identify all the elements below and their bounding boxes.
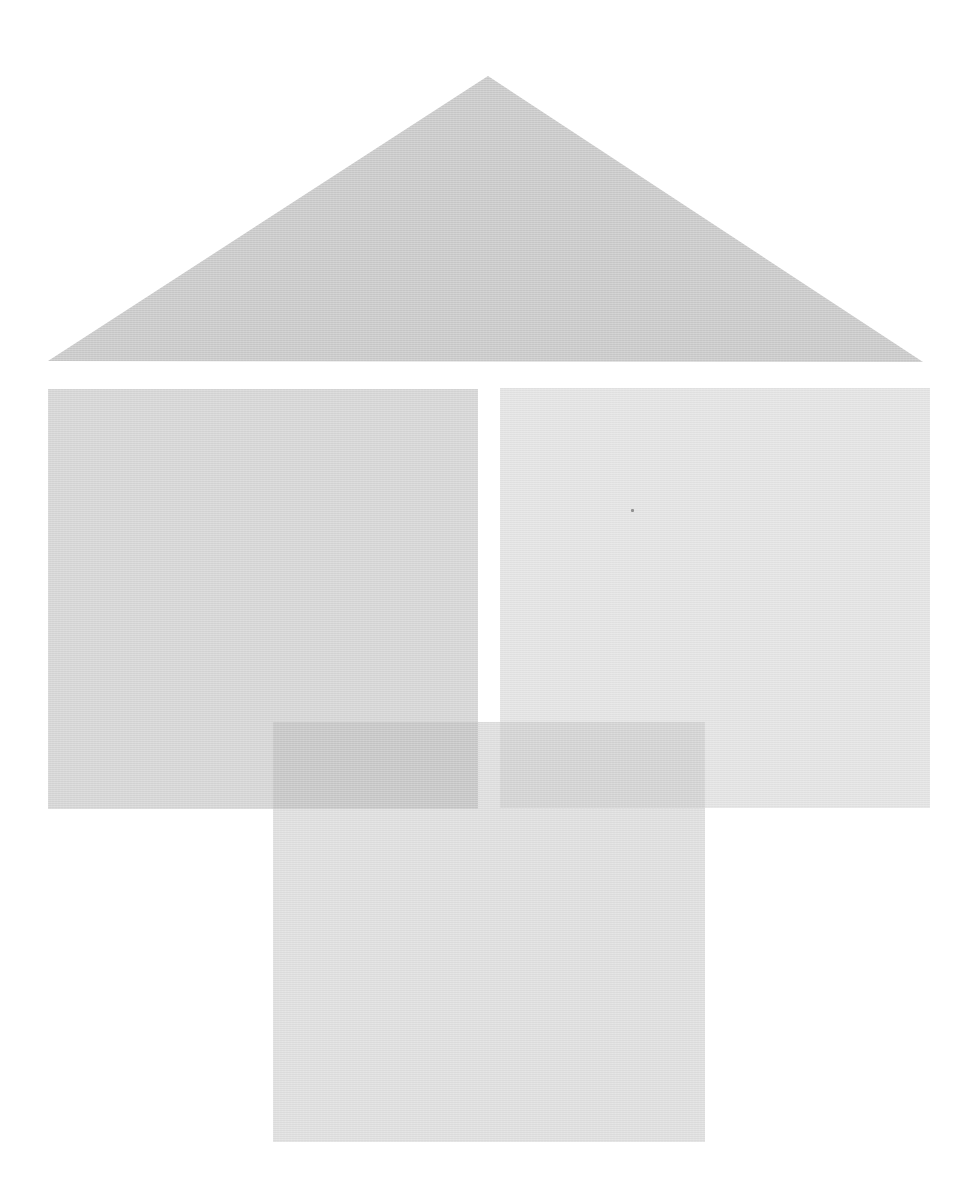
dust-speck xyxy=(631,509,634,512)
artwork-canvas xyxy=(0,0,970,1178)
roof-triangle xyxy=(48,76,923,362)
bottom-right-overlap xyxy=(500,722,705,808)
bottom-left-overlap xyxy=(273,722,478,809)
